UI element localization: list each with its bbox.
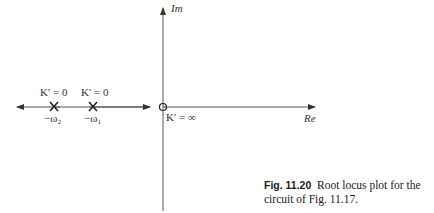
pole-2-location-label: −ω₂ (44, 112, 61, 124)
re-axis-label: Re (304, 112, 316, 124)
pole-1-location-label: −ω₁ (84, 112, 101, 124)
im-axis-label: Im (171, 2, 183, 14)
zero-gain-label: K′ = ∞ (166, 111, 196, 123)
figure-number: Fig. 11.20 (264, 179, 311, 191)
figure-caption: Fig. 11.20 Root locus plot for the circu… (264, 178, 434, 206)
pole-2-gain-label: K′ = 0 (40, 86, 68, 98)
pole-1-gain-label: K′ = 0 (81, 86, 109, 98)
